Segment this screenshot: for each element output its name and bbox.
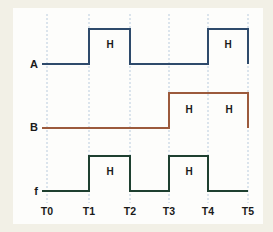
waveform-b (42, 93, 248, 128)
waveform-a (42, 29, 248, 64)
timing-diagram-figure: A B f H H H H H H T0 T1 T2 T3 T4 T5 (0, 0, 273, 232)
high-marker-f1: H (102, 166, 118, 177)
waveform-canvas (0, 0, 273, 232)
tick-label-t5: T5 (237, 205, 259, 217)
row-label-b: B (18, 121, 38, 133)
tick-label-t0: T0 (36, 205, 58, 217)
tick-label-t2: T2 (119, 205, 141, 217)
gridlines (47, 14, 248, 203)
row-label-a: A (18, 58, 38, 70)
high-marker-a1: H (102, 39, 118, 50)
high-marker-b2: H (221, 104, 237, 115)
waveform-f (42, 156, 248, 191)
high-marker-a2: H (220, 39, 236, 50)
high-marker-f2: H (181, 166, 197, 177)
tick-label-t1: T1 (78, 205, 100, 217)
row-label-f: f (18, 185, 38, 197)
tick-label-t4: T4 (197, 205, 219, 217)
high-marker-b1: H (181, 104, 197, 115)
tick-label-t3: T3 (158, 205, 180, 217)
